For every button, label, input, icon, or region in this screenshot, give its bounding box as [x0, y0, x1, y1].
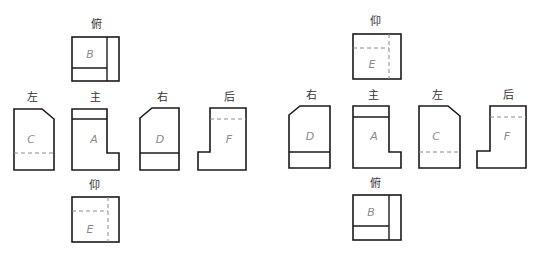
view-letter-d: D: [156, 133, 164, 146]
view-letter-f: F: [226, 133, 233, 146]
left-panel: 俯 B 左 C 主 A 右 D 后: [14, 17, 246, 242]
view-label-left: 左: [27, 91, 38, 104]
top-view-outline: [353, 195, 401, 240]
view-top-b: 俯 B: [72, 17, 119, 81]
view-label-bottom: 仰: [370, 14, 381, 28]
right-panel: 仰 E 右 D 主 A 左 C 后: [289, 14, 526, 240]
view-label-rear: 后: [503, 89, 514, 102]
orthographic-views-diagram: 俯 B 左 C 主 A 右 D 后: [0, 0, 537, 258]
view-front-a: 主 A: [72, 91, 119, 170]
view-rear-f: 后 F: [198, 91, 246, 170]
view-letter-b: B: [86, 48, 94, 61]
rear-view-outline: [198, 108, 246, 170]
view-bottom-e: 仰 E: [72, 178, 119, 242]
view-left-c: 左 C: [14, 91, 54, 170]
view-letter-e: E: [87, 223, 94, 236]
view-letter-a: A: [369, 130, 378, 143]
view-letter-e: E: [369, 58, 376, 71]
view-letter-a: A: [89, 133, 98, 146]
view-label-left: 左: [432, 89, 443, 102]
view-label-front: 主: [368, 89, 379, 102]
view-label-front: 主: [90, 91, 101, 104]
top-view-outline: [72, 37, 119, 81]
bottom-view-outline: [353, 34, 401, 79]
bottom-view-outline: [72, 197, 119, 242]
view-letter-d: D: [306, 130, 314, 143]
view-label-rear: 后: [224, 91, 235, 104]
view-front-a: 主 A: [353, 89, 401, 168]
view-label-bottom: 仰: [89, 178, 100, 192]
view-rear-f: 后 F: [477, 89, 526, 168]
view-right-d: 右 D: [140, 90, 179, 170]
view-left-c: 左 C: [419, 89, 460, 168]
view-letter-f: F: [504, 130, 511, 143]
view-letter-b: B: [367, 206, 375, 219]
view-letter-c: C: [27, 133, 35, 146]
view-right-d: 右 D: [289, 88, 330, 168]
view-label-right: 右: [306, 88, 317, 102]
view-top-b: 俯 B: [353, 176, 401, 240]
view-label-top: 俯: [370, 176, 381, 190]
view-label-top: 俯: [91, 17, 102, 31]
view-label-right: 右: [157, 90, 168, 104]
rear-view-outline: [477, 106, 526, 168]
view-bottom-e: 仰 E: [353, 14, 401, 79]
view-letter-c: C: [432, 130, 440, 143]
